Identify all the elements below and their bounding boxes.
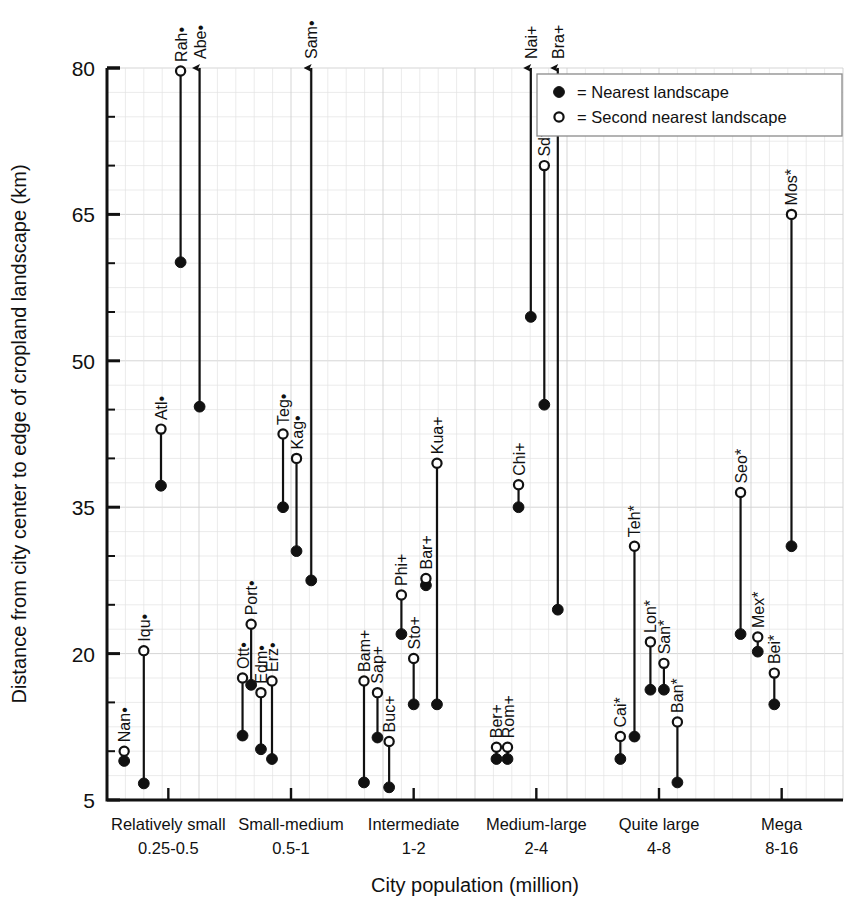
- second-nearest-landscape-marker[interactable]: [409, 654, 418, 663]
- data-point-group[interactable]: [629, 542, 640, 742]
- second-nearest-landscape-marker[interactable]: [397, 590, 406, 599]
- nearest-landscape-marker[interactable]: [769, 699, 780, 710]
- data-point-group[interactable]: [769, 669, 780, 710]
- city-label: Chi+: [511, 442, 528, 475]
- nearest-landscape-marker[interactable]: [645, 684, 656, 695]
- scatter-plot-svg: 52035506580Distance from city center to …: [0, 0, 855, 912]
- data-point-group[interactable]: [615, 732, 626, 764]
- second-nearest-landscape-marker[interactable]: [292, 454, 301, 463]
- x-category-label: Relatively small: [111, 815, 226, 833]
- city-label: Atl•: [153, 396, 170, 420]
- data-point-group[interactable]: [539, 161, 550, 410]
- data-point-group[interactable]: [525, 68, 536, 322]
- second-nearest-landscape-marker[interactable]: [787, 210, 796, 219]
- second-nearest-landscape-marker[interactable]: [616, 732, 625, 741]
- data-point-group[interactable]: [491, 743, 502, 765]
- data-point-group[interactable]: [291, 454, 302, 557]
- second-nearest-landscape-marker[interactable]: [770, 669, 779, 678]
- nearest-landscape-marker[interactable]: [359, 777, 370, 788]
- nearest-landscape-marker[interactable]: [525, 311, 536, 322]
- second-nearest-landscape-marker[interactable]: [156, 425, 165, 434]
- nearest-landscape-marker[interactable]: [659, 684, 670, 695]
- data-point-group[interactable]: [432, 459, 443, 710]
- data-point-group[interactable]: [735, 488, 746, 640]
- nearest-landscape-marker[interactable]: [735, 629, 746, 640]
- data-point-group[interactable]: [645, 637, 656, 695]
- data-point-group[interactable]: [119, 747, 130, 767]
- nearest-landscape-marker[interactable]: [175, 257, 186, 268]
- second-nearest-landscape-marker[interactable]: [247, 620, 256, 629]
- data-point-group[interactable]: [156, 425, 167, 492]
- nearest-landscape-marker[interactable]: [278, 502, 289, 513]
- data-point-group[interactable]: [502, 743, 513, 765]
- city-label: Bra+: [550, 25, 567, 59]
- second-nearest-landscape-marker[interactable]: [659, 659, 668, 668]
- second-nearest-landscape-marker[interactable]: [432, 459, 441, 468]
- nearest-landscape-marker[interactable]: [752, 646, 763, 657]
- second-nearest-landscape-marker[interactable]: [753, 632, 762, 641]
- second-nearest-landscape-marker[interactable]: [176, 66, 185, 75]
- second-nearest-landscape-marker[interactable]: [630, 542, 639, 551]
- nearest-landscape-marker[interactable]: [513, 502, 524, 513]
- nearest-landscape-marker[interactable]: [194, 401, 205, 412]
- legend-open-circle-icon: [554, 112, 563, 121]
- y-tick-label: 65: [72, 203, 95, 226]
- nearest-landscape-marker[interactable]: [256, 744, 267, 755]
- data-point-group[interactable]: [138, 646, 149, 789]
- legend-filled-circle-icon: [554, 87, 565, 98]
- second-nearest-landscape-marker[interactable]: [120, 747, 129, 756]
- second-nearest-landscape-marker[interactable]: [503, 743, 512, 752]
- nearest-landscape-marker[interactable]: [629, 731, 640, 742]
- data-point-group[interactable]: [306, 68, 317, 586]
- second-nearest-landscape-marker[interactable]: [238, 673, 247, 682]
- data-point-group[interactable]: [384, 737, 395, 793]
- second-nearest-landscape-marker[interactable]: [139, 646, 148, 655]
- data-point-group[interactable]: [513, 480, 524, 512]
- nearest-landscape-marker[interactable]: [372, 732, 383, 743]
- x-category-label: Mega: [761, 815, 803, 833]
- nearest-landscape-marker[interactable]: [384, 782, 395, 793]
- nearest-landscape-marker[interactable]: [306, 575, 317, 586]
- second-nearest-landscape-marker[interactable]: [646, 637, 655, 646]
- second-nearest-landscape-marker[interactable]: [421, 574, 430, 583]
- nearest-landscape-marker[interactable]: [491, 754, 502, 765]
- nearest-landscape-marker[interactable]: [156, 480, 167, 491]
- data-point-group[interactable]: [359, 676, 370, 788]
- nearest-landscape-marker[interactable]: [615, 754, 626, 765]
- data-point-group[interactable]: [672, 717, 683, 788]
- second-nearest-landscape-marker[interactable]: [673, 717, 682, 726]
- nearest-landscape-marker[interactable]: [502, 754, 513, 765]
- data-point-group[interactable]: [421, 574, 432, 591]
- nearest-landscape-marker[interactable]: [432, 699, 443, 710]
- data-point-group[interactable]: [175, 66, 186, 267]
- second-nearest-landscape-marker[interactable]: [256, 688, 265, 697]
- data-point-group[interactable]: [256, 688, 267, 755]
- nearest-landscape-marker[interactable]: [672, 777, 683, 788]
- city-label: Abe•: [192, 25, 209, 59]
- data-point-group[interactable]: [659, 659, 670, 695]
- nearest-landscape-marker[interactable]: [539, 399, 550, 410]
- second-nearest-landscape-marker[interactable]: [540, 161, 549, 170]
- legend: = Nearest landscape= Second nearest land…: [537, 74, 842, 136]
- second-nearest-landscape-marker[interactable]: [359, 676, 368, 685]
- second-nearest-landscape-marker[interactable]: [385, 737, 394, 746]
- nearest-landscape-marker[interactable]: [786, 541, 797, 552]
- data-point-group[interactable]: [408, 654, 419, 710]
- data-series: [119, 66, 797, 792]
- second-nearest-landscape-marker[interactable]: [514, 480, 523, 489]
- nearest-landscape-marker[interactable]: [237, 730, 248, 741]
- data-point-group[interactable]: [278, 429, 289, 512]
- data-point-group[interactable]: [552, 68, 563, 615]
- nearest-landscape-marker[interactable]: [138, 778, 149, 789]
- data-point-group[interactable]: [752, 632, 763, 657]
- second-nearest-landscape-marker[interactable]: [278, 429, 287, 438]
- nearest-landscape-marker[interactable]: [119, 756, 130, 767]
- legend-label-nearest: = Nearest landscape: [577, 83, 729, 101]
- nearest-landscape-marker[interactable]: [267, 754, 278, 765]
- city-label: Sto+: [406, 616, 423, 649]
- second-nearest-landscape-marker[interactable]: [492, 743, 501, 752]
- nearest-landscape-marker[interactable]: [552, 604, 563, 615]
- nearest-landscape-marker[interactable]: [291, 546, 302, 557]
- nearest-landscape-marker[interactable]: [408, 699, 419, 710]
- second-nearest-landscape-marker[interactable]: [736, 488, 745, 497]
